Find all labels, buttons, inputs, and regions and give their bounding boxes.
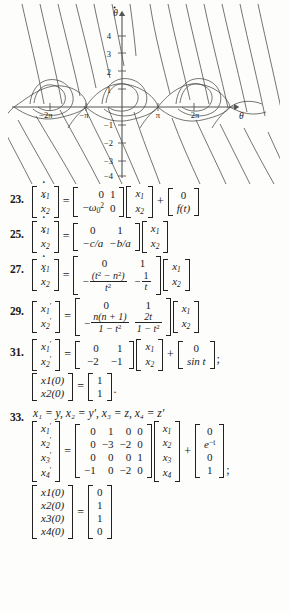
equals-sign: = [61,444,74,459]
state-vector: x1 x2 [136,339,163,371]
m-1-1: −1 [105,355,129,368]
problem-body: x1 x2 = 0 1 −c/a −b/a x1 [31,221,286,253]
m-0-0: 0 [81,425,99,438]
xtick-negpi: −π [79,110,89,120]
axes [12,14,236,178]
initial-lhs-vector: x1(0) x2(0) [32,373,73,401]
coefficient-matrix: 0 1 − n(n + 1) 1 − t2 [75,298,171,336]
ytick-neg2: −2 [104,138,113,148]
ytick-4: 4 [107,31,112,41]
phase-portrait-figure: 4 3 2 1 −1 −2 −3 −4 −2π −π π 2π θ θ [0,0,290,186]
ytick-neg3: −3 [104,156,113,166]
initial-rhs-vector: 1 1 [88,373,112,401]
problem-list: 23. x1 x2 = 0 1 −ω02 0 [0,186,290,539]
ic-l-3: x4(0) [38,525,67,538]
m-1-0: 0 [81,438,99,451]
initial-lhs-vector: x1(0) x2(0) x3(0) x4(0) [32,485,73,539]
problem-31: 31. x1′ x2′ = 0 1 −2 −1 [10,339,286,401]
ic-l-0: x1(0) [38,486,67,499]
problem-body: x1 x2 = 0 1 −ω02 0 x1 [31,186,286,218]
yaxis-label: θ [113,8,118,18]
problem-25: 25. x1 x2 = 0 1 −c/a −b/a [10,221,286,253]
forcing-vector: 0 sin t [178,341,215,369]
m-0-0: 0 [79,257,129,270]
problem-number: 29. [10,298,31,317]
ic-r-1: 1 [94,387,106,400]
problem-body: x1′ x2′ = 0 1 −2 −1 x1 [31,339,286,401]
tick-labels: 4 3 2 1 −1 −2 −3 −4 −2π −π π 2π θ θ [39,6,244,181]
plus-sign: + [181,444,194,459]
xtick-neg2pi: −2π [39,110,53,120]
coefficient-matrix: 0 1 −ω02 0 [73,187,124,217]
m-1-1: 0 [107,201,119,216]
m-2-0: 0 [81,451,99,464]
m-2-3: 1 [134,451,146,464]
coefficient-matrix: 0 1 −2 −1 [75,341,134,369]
ic-l-2: x3(0) [38,512,67,525]
problem-33: 33. x₁ = y, x₂ = y′, x₃ = z, x₄ = z′ x1′… [10,404,286,540]
m-0-1: 1 [132,299,165,312]
m-1-0: −ω02 [79,201,106,216]
plus-sign: + [164,347,177,362]
problem-body: x₁ = y, x₂ = y′, x₃ = z, x₄ = z′ x1′ x2′… [31,404,286,540]
lhs-vector: x1′ x2′ [32,301,60,333]
xaxis-label: θ [239,111,244,121]
ic-r-3: 0 [94,525,106,538]
m-0-0: 0 [79,188,106,201]
trailer: ; [225,463,229,482]
lhs-vector: x1′ x2′ [32,339,60,371]
state-vector: x1 x2 [173,301,200,333]
problem-number: 27. [10,256,31,275]
yaxis-label-dot [114,6,116,8]
equals-sign: = [60,194,73,209]
ic-r-0: 1 [94,374,106,387]
m-3-0: −1 [81,464,99,477]
ytick-neg1: −1 [104,120,113,130]
m-0-1: 1 [107,188,119,201]
state-vector: x1 x2 [163,259,190,291]
ic-l-0: x1(0) [38,374,67,387]
m-3-3: 0 [134,464,146,477]
ic-l-1: x2(0) [38,499,67,512]
m-0-0: 0 [79,224,106,237]
problem-29: 29. x1′ x2′ = 0 1 − [10,298,286,336]
lhs-vector: x1′ x2′ x3′ x4′ [32,421,60,483]
m-1-1: −b/a [106,237,133,250]
coefficient-matrix: 0 1 − (t2 − n2) t2 − 1 [73,256,161,295]
equals-sign: = [61,309,74,324]
m-3-2: −2 [116,464,134,477]
m-1-1: 2t 1 − t2 [132,312,165,335]
f-0: 0 [201,425,218,438]
m-0-1: 1 [106,224,133,237]
ic-l-1: x2(0) [38,387,67,400]
state-vector: x1 x2 [126,186,153,218]
problem-number: 25. [10,221,31,240]
phase-portrait-svg: 4 3 2 1 −1 −2 −3 −4 −2π −π π 2π θ θ [0,0,290,186]
problem-number: 23. [10,186,31,205]
problem-27: 27. x1 x2 = 0 1 − [10,256,286,295]
f-1: sin t [184,355,209,368]
equals-sign: = [74,379,87,394]
ytick-1: 1 [107,85,111,95]
m-0-0: 0 [81,342,105,355]
problem-23: 23. x1 x2 = 0 1 −ω02 0 [10,186,286,218]
equals-sign: = [61,347,74,362]
problem-number: 33. [10,404,31,423]
m-1-0: − (t2 − n2) t2 [79,270,129,294]
equals-sign: = [60,268,73,283]
f-1: e−t [201,438,218,451]
problem-number: 31. [10,339,31,358]
m-1-2: −2 [116,438,134,451]
m-1-3: 0 [134,438,146,451]
m-0-3: 0 [134,425,146,438]
state-vector: x1 x2 [142,221,169,253]
state-vector: x1 x2 x3 x4 [154,421,181,483]
m-0-2: 0 [116,425,134,438]
equals-sign: = [74,505,87,520]
ytick-3: 3 [107,49,111,59]
m-1-0: −c/a [79,237,106,250]
f-1: f(t) [174,202,193,215]
m-1-1: − 1 t [130,270,156,294]
f-0: 0 [174,189,193,202]
trailer: ; [216,352,220,371]
